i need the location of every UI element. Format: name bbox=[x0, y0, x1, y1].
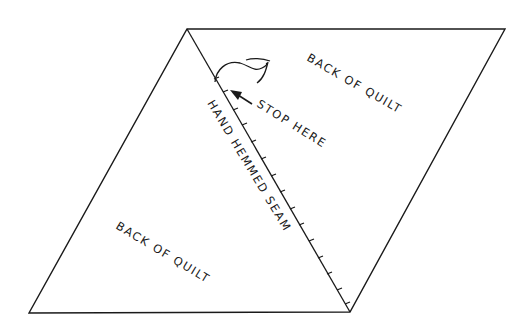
diagram-svg: BACK OF QUILT STOP HERE HAND HEMMED SEAM… bbox=[0, 0, 525, 334]
label-back-of-quilt-upper: BACK OF QUILT bbox=[305, 50, 405, 116]
label-back-of-quilt-lower: BACK OF QUILT bbox=[113, 219, 212, 286]
label-stop-here: STOP HERE bbox=[254, 97, 329, 151]
thread-curl-icon bbox=[215, 62, 267, 82]
quilt-diagram: BACK OF QUILT STOP HERE HAND HEMMED SEAM… bbox=[0, 0, 525, 334]
stop-arrow-icon bbox=[230, 90, 252, 104]
quilt-outline bbox=[29, 29, 505, 313]
thread-tail-icon bbox=[246, 59, 270, 83]
